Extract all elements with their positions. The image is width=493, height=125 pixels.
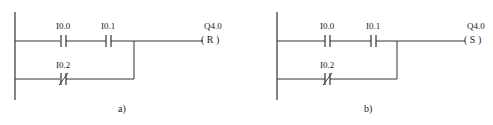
coil-label: Q4.0 — [204, 21, 222, 31]
diagram-caption: a) — [118, 103, 126, 114]
normally-open-contact-icon — [106, 35, 111, 47]
ladder-diagram-a: I0.0 I0.1 I0.2 Q4.0 ( R ) a) — [0, 0, 246, 125]
coil-label: Q4.0 — [467, 21, 485, 31]
contact-label: I0.1 — [101, 21, 115, 31]
contact-label: I0.1 — [366, 21, 380, 31]
contact-label: I0.0 — [320, 21, 334, 31]
set-coil-icon: ( S ) — [464, 35, 481, 45]
contact-label: I0.2 — [56, 60, 70, 70]
diagram-caption: b) — [364, 103, 372, 114]
normally-open-contact-icon — [61, 35, 66, 47]
reset-coil-icon: ( R ) — [201, 35, 219, 45]
contact-label: I0.2 — [320, 60, 334, 70]
ladder-diagram-b: I0.0 I0.1 I0.2 Q4.0 ( S ) b) — [247, 0, 493, 125]
normally-open-contact-icon — [325, 35, 330, 47]
contact-label: I0.0 — [56, 21, 70, 31]
normally-open-contact-icon — [371, 35, 376, 47]
